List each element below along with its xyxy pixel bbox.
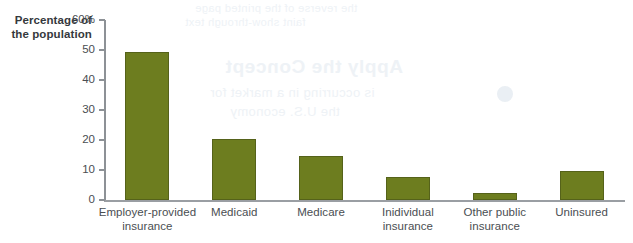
- bar-slot: [212, 20, 256, 200]
- bar: [386, 177, 430, 200]
- bar-slot: [473, 20, 517, 200]
- y-tick-label-text: 30: [46, 104, 95, 115]
- y-tick-label-text: 20: [46, 134, 95, 145]
- y-tick-label: 30: [46, 104, 95, 115]
- bar: [473, 193, 517, 200]
- plot-area: [104, 20, 625, 200]
- bar: [212, 139, 256, 200]
- bar: [125, 52, 169, 200]
- y-tick-label-text: 0: [46, 194, 95, 205]
- y-tick-label: 50: [46, 44, 95, 55]
- bar: [560, 171, 604, 200]
- bar-slot: [125, 20, 169, 200]
- x-axis-category-label: Uninsured: [526, 206, 633, 220]
- bar-chart: Percentage of the population 01020304050…: [0, 0, 633, 243]
- y-tick-label: 20: [46, 134, 95, 145]
- y-tick-label: 60%: [46, 14, 95, 25]
- bar-slot: [560, 20, 604, 200]
- y-tick-label: 0: [46, 194, 95, 205]
- bar: [299, 156, 343, 200]
- y-tick-label: 10: [46, 164, 95, 175]
- y-tick-label: 40: [46, 74, 95, 85]
- y-tick-label-text: 10: [46, 164, 95, 175]
- y-tick-label-text: 50: [46, 44, 95, 55]
- bar-slot: [386, 20, 430, 200]
- y-tick-label-text: 40: [46, 74, 95, 85]
- bar-slot: [299, 20, 343, 200]
- y-tick-label-text: 60%: [46, 14, 95, 25]
